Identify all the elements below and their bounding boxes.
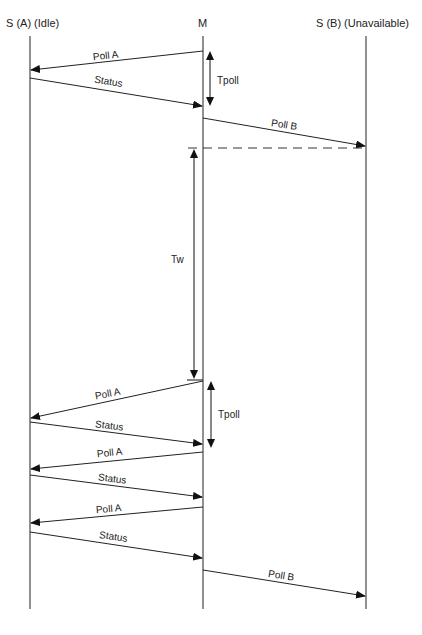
message-poll-b-2: Poll B	[203, 568, 365, 596]
tpoll-label: Tpoll	[218, 409, 240, 420]
arrow-down-icon	[207, 439, 215, 448]
arrow-down-icon	[190, 370, 198, 379]
arrow-up-icon	[207, 381, 215, 390]
tw-label: Tw	[171, 254, 185, 265]
participant-a-label: S (A) (Idle)	[6, 17, 59, 29]
sequence-diagram: S (A) (Idle) M S (B) (Unavailable) Poll …	[0, 0, 422, 635]
arrow-up-icon	[190, 149, 198, 158]
tpoll-interval-1: Tpoll	[206, 51, 239, 106]
tpoll-label: Tpoll	[217, 75, 239, 86]
message-label: Poll A	[92, 49, 119, 63]
message-poll-a-3: Poll A	[31, 446, 203, 469]
message-label: Poll A	[95, 502, 122, 515]
message-status-3: Status	[30, 471, 202, 497]
message-poll-a-1: Poll A	[31, 49, 203, 70]
message-label: Poll B	[271, 117, 299, 132]
message-status-4: Status	[30, 529, 202, 558]
message-status-1: Status	[30, 74, 202, 106]
arrow-up-icon	[206, 51, 214, 60]
message-label: Status	[99, 529, 129, 544]
tw-interval: Tw	[171, 149, 203, 380]
message-poll-b-1: Poll B	[203, 117, 365, 146]
message-label: Poll A	[96, 446, 123, 460]
participant-m-label: M	[198, 17, 207, 29]
arrow-down-icon	[206, 97, 214, 106]
message-label: Status	[98, 471, 127, 485]
participant-b-label: S (B) (Unavailable)	[316, 17, 409, 29]
message-poll-a-2: Poll A	[31, 381, 203, 418]
message-label: Status	[94, 74, 124, 89]
tpoll-interval-2: Tpoll	[207, 381, 240, 448]
message-status-2: Status	[30, 418, 202, 444]
message-poll-a-4: Poll A	[31, 502, 203, 523]
